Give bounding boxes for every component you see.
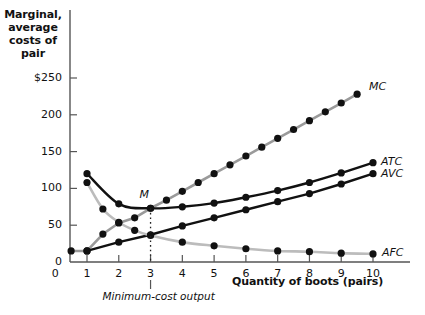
data-point-mc bbox=[195, 179, 202, 186]
data-point-atc bbox=[179, 203, 186, 210]
x-tick-label: 10 bbox=[361, 267, 385, 280]
curve-label-atc: ATC bbox=[381, 155, 402, 168]
minimum-cost-output-label: Minimum-cost output bbox=[103, 290, 215, 302]
data-point-avc bbox=[179, 222, 186, 229]
data-point-avc bbox=[338, 180, 345, 187]
data-point-atc bbox=[147, 205, 154, 212]
data-point-mc bbox=[163, 197, 170, 204]
data-point-mc bbox=[258, 144, 265, 151]
data-point-afc bbox=[115, 219, 122, 226]
data-point-mc bbox=[179, 188, 186, 195]
data-point-afc bbox=[99, 205, 106, 212]
data-point-avc bbox=[274, 198, 281, 205]
data-point-avc bbox=[242, 206, 249, 213]
x-tick-label: 0 bbox=[43, 267, 67, 280]
data-point-atc bbox=[274, 187, 281, 194]
data-point-afc bbox=[338, 250, 345, 257]
data-point-afc bbox=[274, 247, 281, 254]
cost-curves-figure: Marginal, average costs of pair Quantity… bbox=[0, 0, 425, 315]
data-point-atc bbox=[338, 169, 345, 176]
series-line-avc bbox=[87, 174, 373, 251]
y-tick-label: $250 bbox=[16, 71, 62, 84]
series-lines bbox=[71, 94, 373, 254]
x-tick-label: 8 bbox=[297, 267, 321, 280]
x-tick-label: 9 bbox=[329, 267, 353, 280]
x-tick-label: 5 bbox=[202, 267, 226, 280]
data-point-mc bbox=[354, 91, 361, 98]
x-tick-label: 3 bbox=[139, 267, 163, 280]
data-point-atc bbox=[115, 200, 122, 207]
data-point-mc bbox=[242, 152, 249, 159]
data-point-mc bbox=[274, 135, 281, 142]
y-axis-ticks bbox=[70, 78, 77, 225]
data-point-afc bbox=[369, 250, 376, 257]
series-line-atc bbox=[87, 163, 373, 209]
y-tick-label: 150 bbox=[16, 145, 62, 158]
data-point-avc bbox=[83, 247, 90, 254]
x-tick-label: 1 bbox=[75, 267, 99, 280]
data-point-mc bbox=[68, 247, 75, 254]
x-tick-label: 7 bbox=[266, 267, 290, 280]
data-point-afc bbox=[211, 242, 218, 249]
data-point-afc bbox=[306, 248, 313, 255]
data-point-afc bbox=[131, 227, 138, 234]
data-point-mc bbox=[290, 126, 297, 133]
x-tick-label: 6 bbox=[234, 267, 258, 280]
data-point-afc bbox=[179, 239, 186, 246]
data-point-afc bbox=[83, 179, 90, 186]
y-tick-label: 100 bbox=[16, 181, 62, 194]
data-point-avc bbox=[115, 239, 122, 246]
point-m-label: M bbox=[140, 188, 150, 201]
data-point-avc bbox=[306, 190, 313, 197]
data-point-atc bbox=[83, 170, 90, 177]
data-point-atc bbox=[306, 179, 313, 186]
curve-label-avc: AVC bbox=[381, 167, 403, 180]
data-point-mc bbox=[322, 108, 329, 115]
curve-label-afc: AFC bbox=[382, 246, 404, 259]
data-point-atc bbox=[242, 194, 249, 201]
data-point-mc bbox=[99, 230, 106, 237]
data-point-atc bbox=[211, 200, 218, 207]
data-point-avc bbox=[211, 214, 218, 221]
data-point-afc bbox=[147, 232, 154, 239]
data-point-afc bbox=[242, 245, 249, 252]
data-point-mc bbox=[338, 99, 345, 106]
data-point-mc bbox=[226, 161, 233, 168]
data-point-mc bbox=[211, 170, 218, 177]
y-tick-label: 50 bbox=[16, 218, 62, 231]
data-point-mc bbox=[131, 214, 138, 221]
y-tick-label: 200 bbox=[16, 108, 62, 121]
data-point-mc bbox=[306, 117, 313, 124]
curve-label-mc: MC bbox=[369, 80, 386, 93]
data-point-avc bbox=[369, 170, 376, 177]
series-markers bbox=[68, 91, 377, 258]
data-point-atc bbox=[369, 159, 376, 166]
x-axis-ticks bbox=[87, 255, 373, 262]
x-tick-label: 2 bbox=[107, 267, 131, 280]
x-tick-label: 4 bbox=[170, 267, 194, 280]
